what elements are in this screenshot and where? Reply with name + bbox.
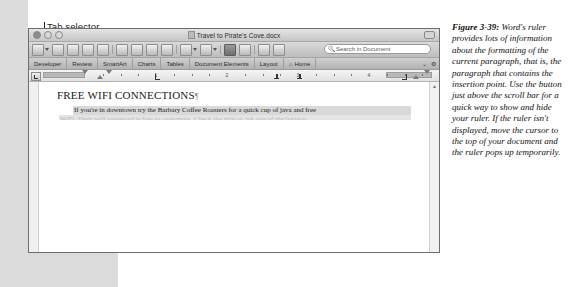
ruler-tick: [192, 74, 193, 76]
chevron-down-icon[interactable]: [213, 48, 217, 51]
toolbar-separator: [112, 45, 113, 54]
document-ruler[interactable]: 1234: [29, 70, 439, 82]
paste-icon[interactable]: [146, 44, 158, 56]
ruler-marker-center-tab[interactable]: [274, 74, 279, 79]
toolbar-separator: [176, 45, 177, 54]
tab-review[interactable]: Review: [67, 58, 98, 69]
toolbar-separator: [254, 45, 255, 54]
figure-caption-body: Word's ruler provides lots of informatio…: [452, 22, 562, 157]
ruler-tick: [174, 74, 175, 76]
ruler-number: 2: [226, 72, 229, 78]
search-input[interactable]: 🔍 Search in Document: [324, 44, 431, 54]
format-painter-icon[interactable]: [161, 44, 173, 56]
tab-selector-button[interactable]: [31, 72, 41, 81]
tab-label: Developer: [34, 61, 61, 67]
ruler-tick: [138, 74, 139, 76]
home-icon: ⌂: [289, 61, 293, 67]
cut-icon[interactable]: [116, 44, 128, 56]
tab-layout[interactable]: Layout: [255, 58, 284, 69]
ruler-tick: [121, 74, 122, 76]
ruler-tick: [334, 74, 335, 76]
settings-gear-icon[interactable]: ⚙: [431, 60, 436, 67]
tab-label: Home: [294, 61, 310, 67]
document-icon: [188, 31, 195, 39]
scroll-up-arrow-icon[interactable]: ▲: [432, 84, 437, 89]
sidebar-icon[interactable]: [239, 44, 251, 56]
save-icon[interactable]: [67, 44, 79, 56]
undo-icon[interactable]: [180, 44, 192, 56]
ruler-marker-left-tab[interactable]: [155, 74, 160, 80]
collapse-ribbon-icon[interactable]: ⌄: [422, 60, 427, 67]
document-paragraph-partial[interactable]: WiFi. Their wifi password is free to cus…: [59, 115, 411, 120]
ruler-tick: [351, 74, 352, 76]
ruler-marker-first-line-indent[interactable]: [106, 70, 112, 74]
toolbar-separator: [220, 45, 221, 54]
ruler-tick: [209, 74, 210, 76]
window-titlebar: Travel to Pirate's Cove.docx: [29, 29, 439, 42]
window-title-text: Travel to Pirate's Cove.docx: [197, 32, 281, 39]
ruler-tick: [422, 74, 423, 76]
open-icon[interactable]: [52, 44, 64, 56]
ruler-left-margin-zone: [43, 72, 85, 78]
ribbon-tab-bar: DeveloperReviewSmartArtChartsTablesDocum…: [29, 58, 439, 70]
tab-label: Document Elements: [195, 61, 249, 67]
tab-label: Charts: [138, 61, 156, 67]
new-document-icon[interactable]: [32, 44, 44, 56]
ruler-marker-right-indent[interactable]: [413, 75, 419, 79]
page-setup-icon[interactable]: [97, 44, 109, 56]
figure-number: Figure 3-39:: [452, 22, 499, 32]
document-left-gutter: [29, 82, 39, 253]
window-title: Travel to Pirate's Cove.docx: [29, 31, 439, 39]
document-paragraph-selected[interactable]: If you're in downtown try the Barbary Co…: [73, 106, 411, 115]
pilcrow-mark: ¶: [195, 92, 199, 101]
tab-tables[interactable]: Tables: [161, 58, 189, 69]
ruler-marker-left-indent[interactable]: [97, 75, 103, 79]
tab-label: Review: [72, 61, 92, 67]
ruler-marker-decimal-tab[interactable]: [297, 74, 302, 79]
vertical-scrollbar[interactable]: ▲ ▼: [429, 82, 439, 253]
copy-icon[interactable]: [131, 44, 143, 56]
ruler-marker-right-margin[interactable]: [424, 70, 430, 74]
page-left-margin-band: [0, 0, 28, 253]
chevron-down-icon[interactable]: [45, 48, 49, 51]
standard-toolbar: 🔍 Search in Document: [29, 42, 439, 58]
ruler-tick: [316, 74, 317, 76]
ruler-tick: [280, 74, 281, 76]
figure-caption: Figure 3-39: Word's ruler provides lots …: [452, 22, 570, 159]
ruler-marker-left-margin[interactable]: [82, 70, 88, 74]
ruler-tick: [263, 74, 264, 76]
tab-developer[interactable]: Developer: [29, 58, 67, 69]
media-browser-icon[interactable]: [273, 44, 285, 56]
redo-icon[interactable]: [200, 44, 212, 56]
tab-charts[interactable]: Charts: [133, 58, 162, 69]
gallery-icon[interactable]: [258, 44, 270, 56]
print-icon[interactable]: [82, 44, 94, 56]
tab-document-elements[interactable]: Document Elements: [190, 58, 255, 69]
page-left-margin-band-low: [0, 253, 118, 287]
word-application-window: Travel to Pirate's Cove.docx 🔍 Search in…: [28, 28, 440, 253]
tab-label: SmartArt: [103, 61, 127, 67]
ruler-number: 4: [368, 72, 371, 78]
toolbar-toggle-button[interactable]: [424, 31, 435, 39]
document-heading: FREE WIFI CONNECTIONS¶: [57, 89, 199, 101]
tab-label: Tables: [166, 61, 183, 67]
search-placeholder: Search in Document: [336, 46, 390, 52]
ribbon-right-controls: ⌄ ⚙: [422, 60, 436, 67]
document-heading-text: FREE WIFI CONNECTIONS: [57, 89, 195, 101]
tab-smartart[interactable]: SmartArt: [98, 58, 133, 69]
tab-home[interactable]: ⌂Home: [284, 58, 317, 69]
ruler-tick: [245, 74, 246, 76]
tab-label: Layout: [260, 61, 278, 67]
show-formatting-icon[interactable]: [224, 44, 236, 56]
chevron-down-icon[interactable]: [193, 48, 197, 51]
ruler-tick: [387, 74, 388, 76]
magnifier-icon: 🔍: [328, 46, 335, 52]
document-canvas[interactable]: ▲ ▼ FREE WIFI CONNECTIONS¶ If you're in …: [29, 82, 439, 253]
ruler-marker-right-tab[interactable]: [402, 74, 407, 80]
